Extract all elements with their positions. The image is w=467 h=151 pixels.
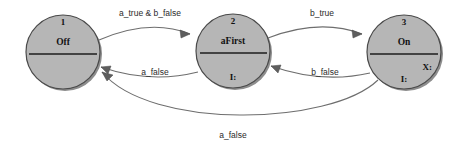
state-node-2-id: 2 <box>231 16 236 26</box>
state-node-2-slot-center: I: <box>230 72 237 82</box>
transition-2-to-1[interactable]: a_false <box>101 66 198 77</box>
transition-1-to-2-arrowhead <box>180 30 190 38</box>
transition-2-to-3[interactable]: b_true <box>268 8 362 38</box>
state-node-1-name: Off <box>56 37 71 47</box>
state-node-3-id: 3 <box>402 17 407 27</box>
state-node-2-name: aFirst <box>221 36 246 46</box>
state-node-3[interactable]: 3 On X: I: <box>367 15 443 91</box>
state-node-3-slot-center: I: <box>401 74 408 84</box>
transition-3-to-2-label: b_false <box>311 67 339 77</box>
transition-1-to-2[interactable]: a_true & b_false <box>99 8 190 40</box>
transition-3-to-2[interactable]: b_false <box>271 65 370 77</box>
state-node-2[interactable]: 2 aFirst I: <box>196 14 272 90</box>
transition-3-to-2-arrowhead <box>271 65 281 73</box>
transition-1-to-2-label: a_true & b_false <box>119 8 181 18</box>
state-node-3-slot-right: X: <box>423 62 433 72</box>
transition-2-to-3-label: b_true <box>310 8 334 18</box>
transition-2-to-3-path <box>268 27 362 38</box>
state-node-1[interactable]: 1 Off <box>26 15 102 91</box>
state-node-1-id: 1 <box>61 17 66 27</box>
state-node-3-name: On <box>398 37 411 47</box>
transition-3-to-1-arrowhead <box>102 72 113 81</box>
state-diagram-canvas: a_true & b_false b_true a_false b_false … <box>0 0 467 151</box>
transition-2-to-3-arrowhead <box>352 30 362 38</box>
transition-1-to-2-path <box>99 27 190 40</box>
transition-2-to-1-label: a_false <box>141 67 169 77</box>
state-diagram: a_true & b_false b_true a_false b_false … <box>0 0 467 151</box>
transition-3-to-1-label: a_false <box>219 130 247 140</box>
